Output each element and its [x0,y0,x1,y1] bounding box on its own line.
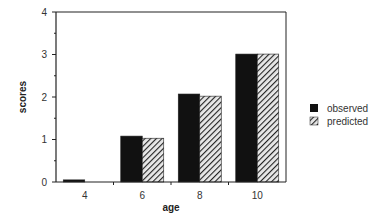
bar-chart: 01234 46810 scores age observed predicte… [0,0,385,219]
x-tick-label: 4 [82,190,88,201]
legend-label-observed: observed [327,103,368,114]
legend-swatch-observed [310,104,318,112]
bar-observed-10 [236,54,258,182]
bar-observed-8 [178,94,200,182]
y-tick-label: 0 [41,177,47,188]
legend: observed predicted [310,103,368,127]
bar-observed-6 [121,136,143,182]
y-tick-label: 4 [41,7,47,18]
bar-predicted-10 [257,54,279,182]
legend-swatch-predicted [310,117,318,125]
bar-predicted-8 [200,96,222,182]
legend-label-predicted: predicted [327,116,368,127]
x-axis-title: age [162,202,180,213]
plot-area [63,54,279,182]
x-axis: 46810 [56,182,286,201]
y-tick-label: 3 [41,49,47,60]
x-tick-label: 8 [197,190,203,201]
x-tick-label: 10 [252,190,264,201]
bar-predicted-6 [142,138,164,182]
y-axis-title: scores [17,80,28,113]
y-tick-label: 1 [41,134,47,145]
x-tick-label: 6 [139,190,145,201]
y-tick-label: 2 [41,92,47,103]
